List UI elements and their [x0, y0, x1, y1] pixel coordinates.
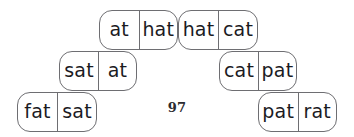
domino-tile[interactable]: at hat — [99, 10, 178, 50]
domino-half-right: pat — [258, 52, 296, 90]
domino-half-right: cat — [218, 11, 257, 49]
domino-half-right: hat — [139, 11, 178, 49]
domino-tile[interactable]: hat cat — [178, 10, 258, 50]
domino-half-left: hat — [179, 11, 218, 49]
domino-half-left: sat — [60, 52, 98, 90]
domino-half-right: at — [98, 52, 136, 90]
domino-half-left: at — [100, 11, 139, 49]
domino-half-left: cat — [220, 52, 258, 90]
worksheet-page: at hat hat cat sat at cat pat fat sat pa… — [0, 0, 354, 137]
page-number: 97 — [0, 100, 354, 115]
domino-tile[interactable]: sat at — [59, 51, 137, 91]
domino-tile[interactable]: cat pat — [219, 51, 297, 91]
